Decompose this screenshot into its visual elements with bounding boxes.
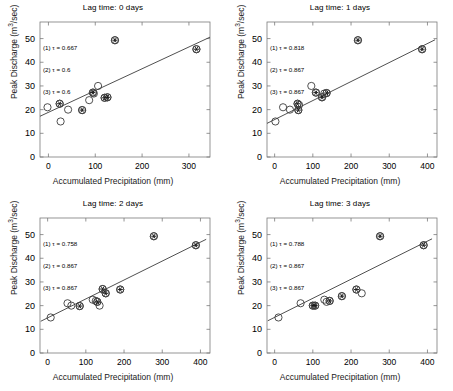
x-tick-label: 400 [420, 161, 434, 171]
data-point-circle [279, 104, 286, 111]
x-tick-label: 100 [306, 357, 320, 367]
data-point-asterisk [338, 293, 345, 300]
plot-area: 010020030040001020304050(1) τ = 0.818(2)… [227, 0, 453, 195]
chart-panel-0: Lag time: 0 daysPeak Discharge (m3/sec)A… [0, 0, 226, 195]
x-tick-label: 100 [306, 161, 320, 171]
y-tick-label: 10 [25, 324, 35, 334]
y-tick-label: 40 [252, 253, 262, 263]
y-tick-label: 30 [25, 81, 35, 91]
y-tick-label: 0 [30, 348, 35, 358]
y-tick-label: 40 [25, 57, 35, 67]
y-tick-label: 50 [252, 230, 262, 240]
tau-annotation-2: (2) τ = 0.867 [43, 262, 78, 269]
data-point-circle [57, 118, 64, 125]
y-tick-label: 10 [252, 324, 262, 334]
x-tick-label: 100 [88, 161, 102, 171]
data-point-asterisk [117, 286, 124, 293]
tau-annotation-2: (2) τ = 0.6 [43, 66, 71, 73]
data-point-asterisk [76, 303, 83, 310]
x-tick-label: 300 [382, 161, 396, 171]
data-point-asterisk [312, 89, 319, 96]
data-point-asterisk [111, 37, 118, 44]
tau-annotation-1: (1) τ = 0.818 [270, 44, 305, 51]
x-tick-label: 400 [420, 357, 434, 367]
data-point-circle [64, 106, 71, 113]
plot-area: 010020030040001020304050(1) τ = 0.758(2)… [0, 196, 226, 391]
x-tick-label: 300 [182, 161, 196, 171]
y-tick-label: 0 [257, 152, 262, 162]
tau-annotation-2: (2) τ = 0.867 [270, 262, 305, 269]
y-tick-label: 20 [252, 301, 262, 311]
x-tick-label: 300 [155, 357, 169, 367]
tau-annotation-3: (3) τ = 0.867 [43, 284, 78, 291]
data-point-circle [44, 104, 51, 111]
data-point-circle [94, 82, 101, 89]
x-tick-label: 200 [344, 357, 358, 367]
figure-root: Lag time: 0 daysPeak Discharge (m3/sec)A… [0, 0, 453, 391]
tau-annotation-3: (3) τ = 0.6 [43, 88, 71, 95]
tau-annotation-1: (1) τ = 0.667 [43, 44, 78, 51]
data-point-asterisk [150, 233, 157, 240]
tau-annotation-1: (1) τ = 0.788 [270, 240, 305, 247]
y-tick-label: 10 [25, 128, 35, 138]
x-tick-label: 200 [135, 161, 149, 171]
chart-panel-1: Lag time: 1 daysPeak Discharge (m3/sec)A… [227, 0, 453, 195]
data-point-circle [86, 97, 93, 104]
x-tick-label: 400 [193, 357, 207, 367]
x-tick-label: 0 [272, 161, 277, 171]
data-point-circle [321, 296, 328, 303]
y-tick-label: 30 [252, 277, 262, 287]
chart-panel-3: Lag time: 3 daysPeak Discharge (m3/sec)A… [227, 196, 453, 391]
y-tick-label: 0 [257, 348, 262, 358]
data-point-asterisk [376, 233, 383, 240]
data-point-asterisk [318, 94, 325, 101]
y-tick-label: 20 [25, 301, 35, 311]
data-point-asterisk [79, 107, 86, 114]
x-tick-label: 200 [117, 357, 131, 367]
y-tick-label: 20 [25, 105, 35, 115]
y-tick-label: 50 [25, 230, 35, 240]
regression-line [267, 40, 435, 124]
y-tick-label: 10 [252, 128, 262, 138]
y-tick-label: 30 [25, 277, 35, 287]
x-tick-label: 100 [79, 357, 93, 367]
data-point-asterisk [56, 100, 63, 107]
y-tick-label: 50 [252, 34, 262, 44]
tau-annotation-1: (1) τ = 0.758 [43, 240, 78, 247]
x-tick-label: 0 [272, 357, 277, 367]
chart-panel-2: Lag time: 2 daysPeak Discharge (m3/sec)A… [0, 196, 226, 391]
y-tick-label: 40 [252, 57, 262, 67]
x-tick-label: 0 [46, 161, 51, 171]
tau-annotation-3: (3) τ = 0.867 [270, 88, 305, 95]
data-point-asterisk [192, 242, 199, 249]
plot-area: 010020030001020304050(1) τ = 0.667(2) τ … [0, 0, 226, 195]
x-tick-label: 200 [344, 161, 358, 171]
plot-area: 010020030040001020304050(1) τ = 0.788(2)… [227, 196, 453, 391]
x-tick-label: 0 [45, 357, 50, 367]
x-tick-label: 300 [382, 357, 396, 367]
y-tick-label: 20 [252, 105, 262, 115]
data-point-asterisk [193, 46, 200, 53]
data-point-asterisk [354, 37, 361, 44]
tau-annotation-2: (2) τ = 0.867 [270, 66, 305, 73]
y-tick-label: 40 [25, 253, 35, 263]
regression-line [268, 239, 432, 321]
y-tick-label: 30 [252, 81, 262, 91]
y-tick-label: 50 [25, 34, 35, 44]
regression-line [41, 239, 206, 321]
data-point-asterisk [353, 286, 360, 293]
data-point-circle [308, 82, 315, 89]
y-tick-label: 0 [30, 152, 35, 162]
tau-annotation-3: (3) τ = 0.867 [270, 284, 305, 291]
data-point-circle [358, 290, 365, 297]
